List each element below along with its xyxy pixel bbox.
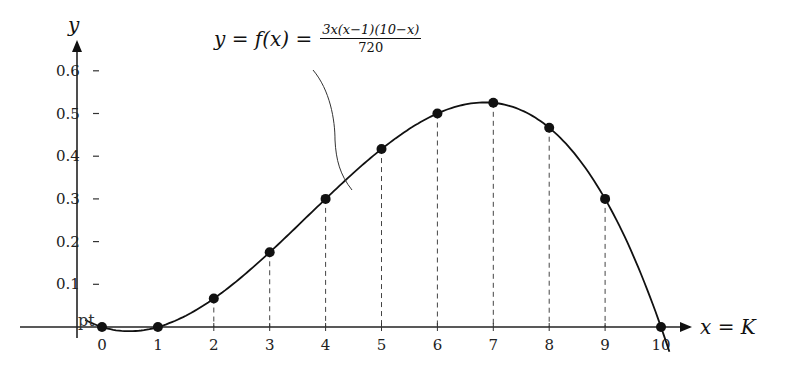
- data-point: [544, 123, 554, 133]
- x-tick-label: 1: [153, 336, 163, 354]
- y-tick-label: 0.6: [56, 62, 80, 80]
- formula-fraction: 3x(x−1)(10−x) 720: [320, 22, 421, 55]
- x-tick-label: 7: [489, 336, 499, 354]
- data-point: [153, 322, 163, 332]
- formula-pointer-line: [313, 70, 352, 190]
- y-tick-label: 0.2: [56, 233, 80, 251]
- data-point: [600, 194, 610, 204]
- y-tick-label: 0.3: [56, 190, 80, 208]
- data-point: [321, 194, 331, 204]
- formula-denominator: 720: [358, 39, 383, 55]
- y-tick-label: 0.1: [56, 275, 80, 293]
- y-tick-label: 0.5: [56, 105, 80, 123]
- x-tick-label: 8: [544, 336, 554, 354]
- dashed-droplines: [214, 103, 605, 327]
- pt-annotation: pt: [78, 311, 95, 330]
- data-point: [432, 109, 442, 119]
- data-point: [209, 294, 219, 304]
- data-point: [377, 144, 387, 154]
- function-curve: [85, 102, 669, 351]
- x-tick-label: 2: [209, 336, 219, 354]
- x-tick-label: 0: [97, 336, 107, 354]
- data-point: [656, 322, 666, 332]
- y-tick-label: 0.4: [56, 147, 80, 165]
- formula-lhs: y = f(x) =: [214, 27, 312, 51]
- x-tick-label: 6: [433, 336, 443, 354]
- formula-label: y = f(x) = 3x(x−1)(10−x) 720: [214, 22, 421, 55]
- x-tick-label: 4: [321, 336, 331, 354]
- chart-svg: 0.10.20.30.40.50.6 012345678910 y x = K …: [0, 0, 791, 379]
- data-point: [265, 247, 275, 257]
- y-axis-label: y: [67, 13, 80, 37]
- x-tick-label: 3: [265, 336, 275, 354]
- x-tick-label: 5: [377, 336, 387, 354]
- data-point: [97, 322, 107, 332]
- x-axis-label: x = K: [700, 315, 757, 339]
- data-point: [488, 98, 498, 108]
- formula-numerator: 3x(x−1)(10−x): [320, 22, 421, 39]
- x-tick-label: 9: [600, 336, 610, 354]
